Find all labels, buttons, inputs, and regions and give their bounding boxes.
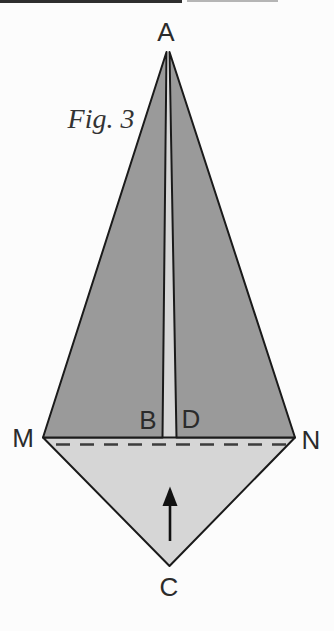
origami-step-diagram bbox=[0, 0, 334, 631]
vertex-label-n: N bbox=[302, 427, 321, 453]
vertex-label-c: C bbox=[160, 574, 179, 600]
right-dark-flap bbox=[170, 52, 296, 438]
vertex-label-d: D bbox=[182, 406, 201, 432]
vertex-label-b: B bbox=[139, 407, 156, 433]
figure-canvas: Fig. 3 A B D M N C bbox=[0, 0, 334, 631]
vertex-label-m: M bbox=[12, 425, 34, 451]
figure-caption: Fig. 3 bbox=[68, 105, 135, 133]
vertex-label-a: A bbox=[157, 19, 174, 45]
